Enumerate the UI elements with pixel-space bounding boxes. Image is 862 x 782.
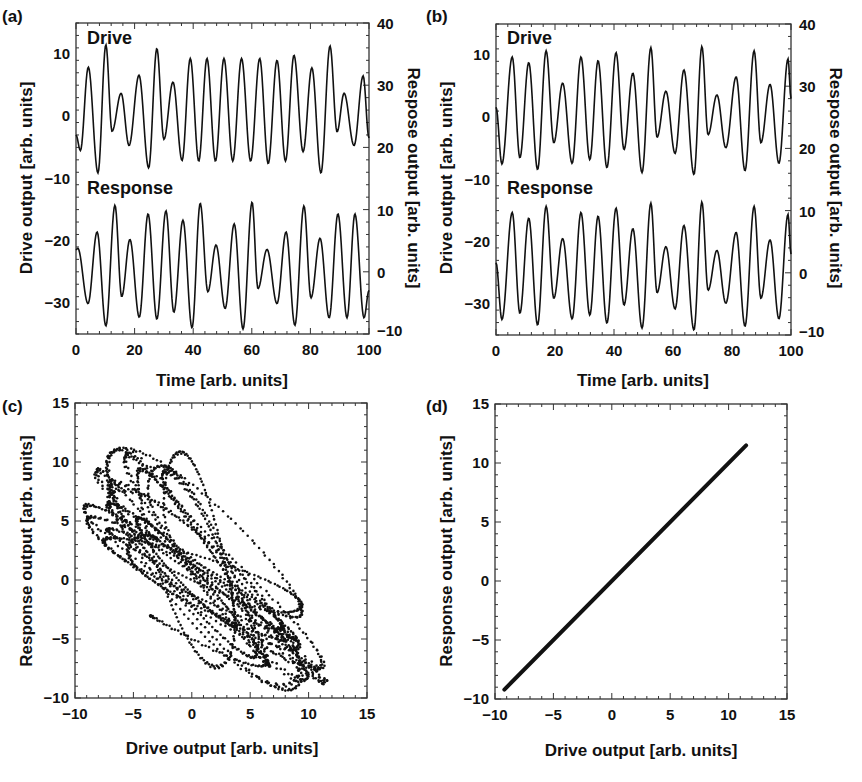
y-right-tick-label: 40 — [377, 15, 394, 32]
panel-b-timeseries: (b) Drive Response Time [arb. units] Dri… — [426, 7, 845, 390]
y-right-tick-label: 0 — [799, 265, 807, 282]
figure: (a) Drive Response Time [arb. units] Dri… — [0, 0, 862, 782]
drive-annotation-b: Drive — [507, 28, 552, 48]
x-tick-label: 60 — [243, 341, 260, 358]
x-tick-label: 10 — [300, 705, 317, 722]
series-drive — [76, 45, 369, 173]
response-annotation-b: Response — [507, 178, 593, 198]
y-tick-label: −10 — [465, 171, 490, 188]
y-axis-label-left-a: Drive output [arb. units] — [17, 82, 36, 275]
y-tick-label: 0 — [482, 108, 490, 125]
y-axis-label-left-b: Drive output [arb. units] — [437, 82, 456, 275]
y-tick-label: 10 — [53, 45, 70, 62]
y-tick-label: −20 — [45, 232, 70, 249]
x-tick-label: 80 — [724, 342, 741, 359]
y-right-tick-label: −10 — [799, 323, 824, 340]
y-tick-label: 5 — [481, 513, 489, 530]
x-tick-label: 40 — [606, 342, 623, 359]
x-tick-label: 15 — [779, 706, 796, 723]
plot-area-d — [504, 445, 746, 689]
x-tick-label: 80 — [302, 341, 319, 358]
panel-c-scatter: (c) Drive output [arb. units] Response o… — [2, 394, 375, 758]
x-tick-label: −10 — [62, 705, 87, 722]
y-tick-label: −10 — [44, 689, 69, 706]
x-axis-label-d: Drive output [arb. units] — [545, 741, 738, 760]
y-right-tick-label: 10 — [377, 202, 394, 219]
x-tick-label: 100 — [778, 342, 803, 359]
y-tick-label: −5 — [472, 631, 489, 648]
plot-area-c — [82, 447, 328, 692]
y-tick-label: 0 — [62, 107, 70, 124]
y-tick-label: 10 — [472, 454, 489, 471]
y-tick-label: 10 — [52, 453, 69, 470]
panel-d-sync-line: (d) Drive output [arb. units] Response o… — [426, 395, 795, 760]
y-axis-label-c: Response output [arb. units] — [17, 435, 36, 666]
x-tick-label: 10 — [720, 706, 737, 723]
y-tick-label: 0 — [481, 572, 489, 589]
y-axis-label-right-a: Respose output [arb. units] — [404, 68, 423, 289]
panel-a-timeseries: (a) Drive Response Time [arb. units] Dri… — [2, 7, 423, 390]
x-tick-label: 100 — [356, 341, 381, 358]
y-right-tick-label: 30 — [377, 77, 394, 94]
y-tick-label: −10 — [45, 170, 70, 187]
x-tick-label: 5 — [246, 705, 254, 722]
y-axis-label-right-b: Respose output [arb. units] — [826, 68, 845, 289]
y-tick-label: 5 — [61, 512, 69, 529]
y-tick-label: −20 — [465, 233, 490, 250]
response-annotation-a: Response — [87, 178, 173, 198]
y-tick-label: 10 — [473, 46, 490, 63]
series-drive — [496, 47, 791, 175]
scatter-points — [82, 447, 328, 692]
sync-line — [504, 445, 746, 689]
y-right-tick-label: 20 — [377, 139, 394, 156]
y-right-tick-label: 0 — [377, 264, 385, 281]
series-response — [496, 202, 791, 330]
y-right-tick-label: 10 — [799, 203, 816, 220]
y-tick-label: 15 — [472, 395, 489, 412]
y-right-tick-label: 40 — [799, 16, 816, 33]
drive-annotation-a: Drive — [87, 28, 132, 48]
x-tick-label: 60 — [665, 342, 682, 359]
y-tick-label: 0 — [61, 571, 69, 588]
y-tick-label: −30 — [465, 295, 490, 312]
x-tick-label: 0 — [188, 705, 196, 722]
x-tick-label: −5 — [125, 705, 142, 722]
y-axis-label-d: Response output [arb. units] — [437, 435, 456, 666]
panel-label-c: (c) — [2, 397, 23, 416]
panel-label-d: (d) — [426, 397, 448, 416]
panel-label-b: (b) — [426, 7, 448, 26]
series-response — [76, 202, 369, 329]
y-tick-label: −10 — [464, 690, 489, 707]
x-tick-label: 20 — [547, 342, 564, 359]
x-tick-label: −10 — [482, 706, 507, 723]
x-axis-label-c: Drive output [arb. units] — [126, 739, 319, 758]
x-axis-label-b: Time [arb. units] — [577, 371, 709, 390]
x-axis-label-a: Time [arb. units] — [156, 371, 288, 390]
y-tick-label: 15 — [52, 394, 69, 411]
y-right-tick-label: 30 — [799, 78, 816, 95]
y-tick-label: −5 — [52, 630, 69, 647]
panel-label-a: (a) — [2, 7, 23, 26]
x-tick-label: 5 — [666, 706, 674, 723]
y-tick-label: −30 — [45, 294, 70, 311]
x-tick-label: −5 — [545, 706, 562, 723]
x-tick-label: 15 — [359, 705, 376, 722]
x-tick-label: 20 — [126, 341, 143, 358]
x-tick-label: 0 — [72, 341, 80, 358]
y-right-tick-label: −10 — [377, 322, 402, 339]
y-right-tick-label: 20 — [799, 140, 816, 157]
x-tick-label: 40 — [185, 341, 202, 358]
x-tick-label: 0 — [608, 706, 616, 723]
x-tick-label: 0 — [492, 342, 500, 359]
